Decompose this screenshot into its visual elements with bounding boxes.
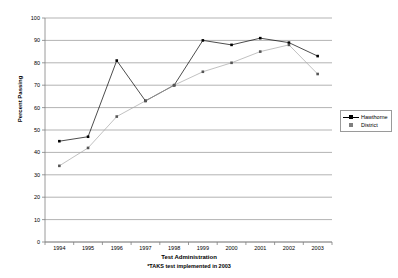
- x-axis-tick-1997: 1997: [130, 245, 160, 251]
- y-axis-tick-40: 40: [18, 149, 40, 155]
- x-axis-tick-1998: 1998: [159, 245, 189, 251]
- legend-key-district-icon: [343, 121, 359, 129]
- x-axis-tick-2001: 2001: [245, 245, 275, 251]
- legend-key-hawthorne-icon: [343, 113, 359, 121]
- chart-container: Percent Passing 0102030405060708090100 1…: [0, 0, 398, 278]
- legend-item-hawthorne[interactable]: Hawthorne: [343, 113, 388, 121]
- x-axis-tick-2002: 2002: [274, 245, 304, 251]
- y-axis-tick-80: 80: [18, 60, 40, 66]
- y-axis-tick-10: 10: [18, 217, 40, 223]
- y-axis-tick-60: 60: [18, 105, 40, 111]
- y-axis-tick-20: 20: [18, 194, 40, 200]
- x-axis-tick-2003: 2003: [303, 245, 333, 251]
- chart-plot-area: [0, 0, 398, 278]
- y-axis-tick-70: 70: [18, 82, 40, 88]
- x-axis-tick-1996: 1996: [102, 245, 132, 251]
- x-axis-tick-2000: 2000: [217, 245, 247, 251]
- legend-label-district: District: [361, 121, 378, 129]
- legend-label-hawthorne: Hawthorne: [361, 113, 388, 121]
- x-axis-title: Test Administration: [45, 254, 333, 260]
- y-axis-tick-50: 50: [18, 127, 40, 133]
- y-axis-tick-30: 30: [18, 172, 40, 178]
- x-axis-tick-1994: 1994: [44, 245, 74, 251]
- x-axis-tick-1995: 1995: [73, 245, 103, 251]
- chart-footnote: *TAKS test implemented in 2003: [45, 263, 333, 269]
- y-axis-tick-0: 0: [18, 239, 40, 245]
- x-axis-tick-1999: 1999: [188, 245, 218, 251]
- y-axis-tick-100: 100: [18, 15, 40, 21]
- y-axis-tick-90: 90: [18, 37, 40, 43]
- legend-item-district[interactable]: District: [343, 121, 388, 129]
- chart-legend: Hawthorne District: [340, 110, 392, 132]
